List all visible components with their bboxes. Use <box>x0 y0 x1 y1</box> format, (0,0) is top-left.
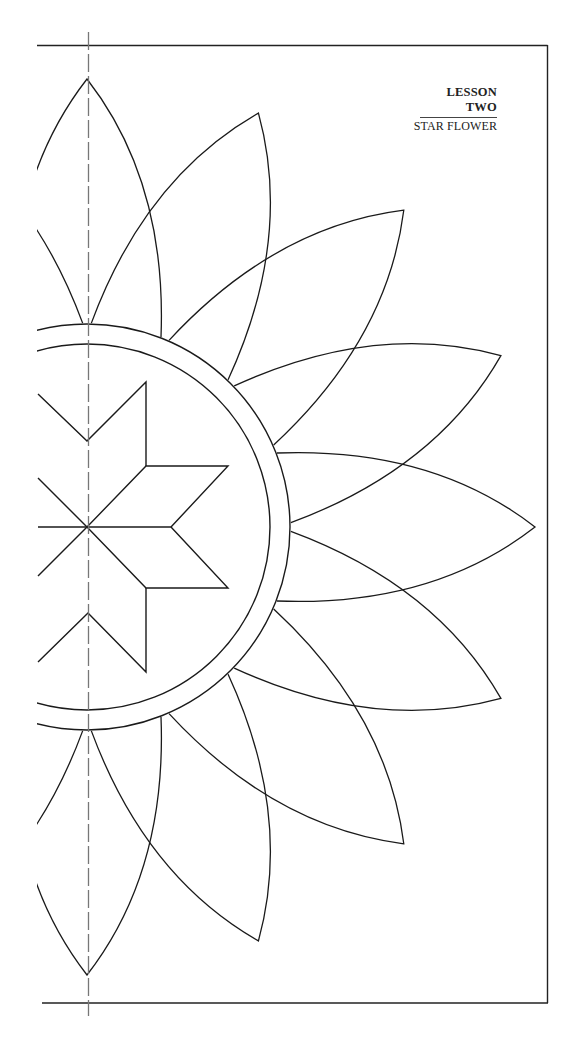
petal <box>13 717 162 975</box>
lesson-title: STAR FLOWER <box>414 118 497 134</box>
star-flower-diagram <box>0 0 568 1049</box>
lesson-label: LESSON TWO STAR FLOWER <box>414 85 497 134</box>
petal <box>277 453 535 602</box>
petal <box>13 79 162 337</box>
lesson-number: LESSON TWO <box>420 85 497 118</box>
